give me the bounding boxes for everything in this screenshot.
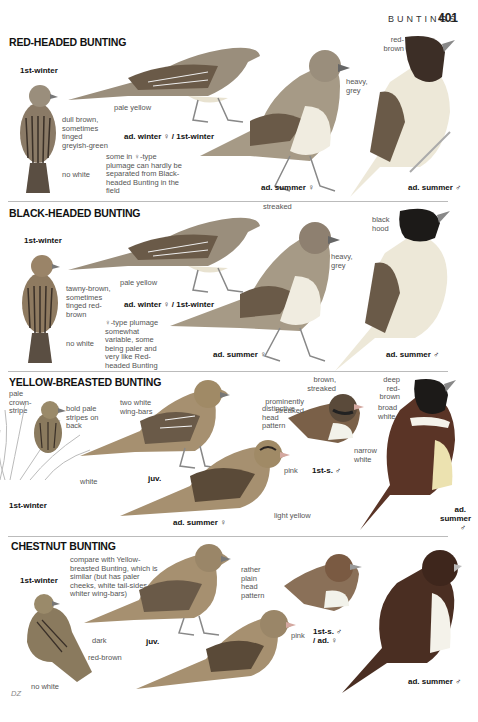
note-female-type: some in ♀-type plumage can hardly be sep… (106, 153, 186, 196)
note-pink: pink (284, 467, 298, 476)
section-divider (8, 201, 448, 202)
note-rather-plain-head: rather plain head pattern (241, 566, 271, 600)
bird-illustration-red-headed-ad-summer-male (350, 32, 460, 202)
label-1st-s-male-ad-female: 1st-s. ♂ / ad. ♀ (313, 627, 343, 645)
label-1st-winter: 1st-winter (20, 66, 58, 75)
label-1st-s-male: 1st-s. ♂ (312, 466, 341, 475)
note-red-brown: red-brown (88, 654, 122, 663)
bird-illustration-red-headed-1st-winter (8, 78, 68, 196)
note-prominently-streaked: prominently streaked (262, 398, 304, 415)
note-red-brown: red-brown (376, 36, 404, 53)
bird-illustration-black-headed-ad-summer-male (335, 203, 460, 373)
note-no-white: no white (66, 340, 94, 349)
note-brown-streaked: brown, streaked (296, 376, 336, 393)
bird-illustration-yellow-breasted-1st-winter (28, 398, 68, 458)
note-two-white-wingbars: two white wing-bars (120, 399, 154, 416)
note-black-hood: black hood (372, 216, 396, 233)
note-pale-yellow: pale yellow (120, 279, 157, 288)
label-ad-summer-male: ad. summer ♂ (440, 505, 466, 532)
note-female-type: ♀-type plumage somewhat variable, some b… (105, 319, 167, 370)
note-pink: pink (291, 632, 305, 641)
note-light-yellow: light yellow (274, 512, 311, 521)
label-ad-summer-male: ad. summer ♂ (408, 677, 461, 686)
note-white: white (80, 478, 98, 487)
bird-illustration-black-headed-1st-winter (10, 248, 70, 366)
bird-illustration-chestnut-ad-female (136, 604, 296, 694)
note-dark: dark (92, 637, 107, 646)
bird-illustration-black-headed-ad-summer-female (170, 216, 340, 366)
bird-illustration-red-headed-ad-summer-female (190, 46, 350, 194)
note-no-white: no white (62, 171, 90, 180)
bird-illustration-chestnut-ad-summer-male (342, 548, 462, 698)
label-ad-summer-female: ad. summer ♀ (213, 350, 266, 359)
note-deep-red-brown: deep red-brown (368, 376, 400, 402)
note-broad-white: broad white (378, 404, 402, 421)
label-ad-summer-female: ad. summer ♀ (261, 183, 314, 192)
label-ad-summer-male: ad. summer ♂ (408, 183, 461, 192)
label-ad-summer-female: ad. summer ♀ (173, 518, 226, 527)
label-ad-summer-male: ad. summer ♂ (386, 350, 439, 359)
section-divider (8, 536, 448, 537)
page-number: 401 (438, 11, 458, 25)
label-1st-winter: 1st-winter (9, 501, 47, 510)
bird-illustration-yellow-breasted-ad-summer-female (120, 436, 290, 526)
note-no-white: no white (31, 683, 59, 692)
artist-initials: DZ (11, 690, 21, 699)
label-1st-winter: 1st-winter (20, 576, 58, 585)
note-pale-yellow: pale yellow (114, 104, 151, 113)
label-1st-winter: 1st-winter (24, 236, 62, 245)
note-streaked: streaked (263, 203, 292, 212)
